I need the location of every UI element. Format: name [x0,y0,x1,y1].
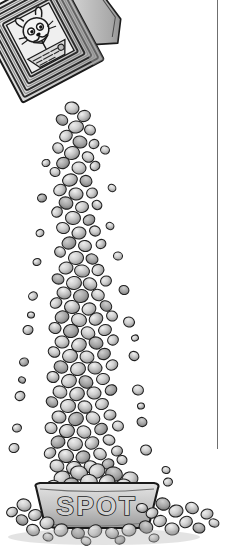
bowl-name-label: SPOT [57,491,138,521]
dog-food-illustration: SPOT [0,0,232,547]
illustration-canvas: SPOT [0,0,232,547]
page-rule [217,0,218,449]
